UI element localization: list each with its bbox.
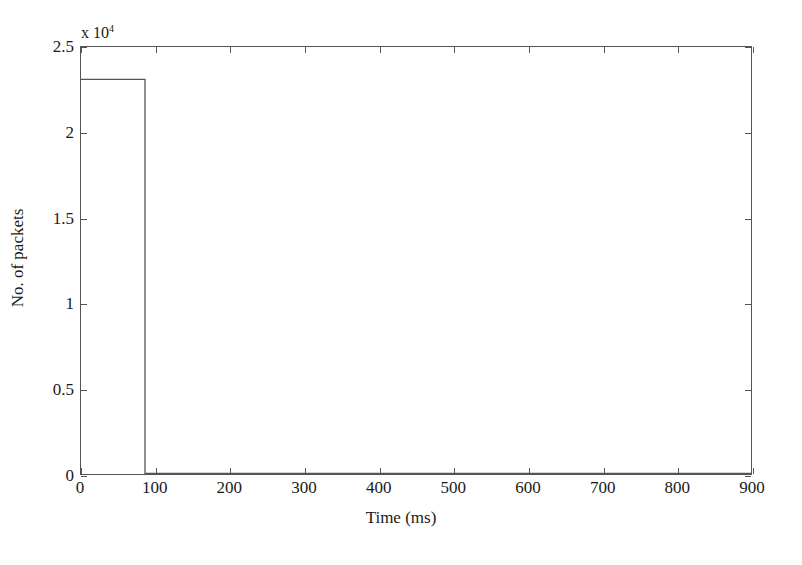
y-tick-2 xyxy=(745,133,751,134)
x-tick-label-800: 800 xyxy=(665,479,691,496)
x-tick-label-0: 0 xyxy=(76,479,85,496)
x-tick-label-100: 100 xyxy=(142,479,168,496)
y-axis-exponent-label: x 104 xyxy=(81,23,114,42)
y-tick-label-0.5: 0.5 xyxy=(53,381,74,398)
x-tick-100 xyxy=(156,47,157,53)
x-tick-label-900: 900 xyxy=(739,479,765,496)
chart-figure: x 104 0100200300400500600700800900 00.51… xyxy=(0,0,802,565)
y-tick-0 xyxy=(81,476,87,477)
y-tick-2.5 xyxy=(81,47,87,48)
y-tick-label-1: 1 xyxy=(66,295,75,312)
y-axis-exponent-power: 4 xyxy=(109,23,114,34)
x-tick-400 xyxy=(380,468,381,474)
x-tick-400 xyxy=(380,47,381,53)
x-tick-500 xyxy=(454,47,455,53)
x-tick-200 xyxy=(230,47,231,53)
y-tick-0.5 xyxy=(81,390,87,391)
x-tick-800 xyxy=(678,47,679,53)
plot-area xyxy=(80,46,752,475)
x-tick-700 xyxy=(604,47,605,53)
x-tick-200 xyxy=(230,468,231,474)
y-tick-0 xyxy=(745,476,751,477)
y-axis-title: No. of packets xyxy=(8,178,28,338)
x-tick-label-400: 400 xyxy=(366,479,392,496)
x-tick-0 xyxy=(81,468,82,474)
y-axis-exponent-prefix: x 10 xyxy=(81,24,109,41)
x-tick-700 xyxy=(604,468,605,474)
x-tick-500 xyxy=(454,468,455,474)
series-line-packets xyxy=(81,79,751,473)
y-tick-1 xyxy=(81,304,87,305)
y-tick-1 xyxy=(745,304,751,305)
x-tick-300 xyxy=(305,47,306,53)
x-tick-300 xyxy=(305,468,306,474)
x-tick-900 xyxy=(753,468,754,474)
data-trace-svg xyxy=(81,47,751,474)
x-tick-label-500: 500 xyxy=(441,479,467,496)
x-tick-label-600: 600 xyxy=(515,479,541,496)
x-tick-600 xyxy=(529,47,530,53)
x-tick-label-200: 200 xyxy=(217,479,243,496)
y-tick-1.5 xyxy=(81,219,87,220)
y-tick-label-2: 2 xyxy=(66,123,75,140)
x-tick-100 xyxy=(156,468,157,474)
y-tick-label-1.5: 1.5 xyxy=(53,209,74,226)
x-tick-600 xyxy=(529,468,530,474)
x-axis-title: Time (ms) xyxy=(0,508,802,528)
x-tick-800 xyxy=(678,468,679,474)
x-tick-label-700: 700 xyxy=(590,479,616,496)
y-tick-2.5 xyxy=(745,47,751,48)
x-tick-label-300: 300 xyxy=(291,479,317,496)
y-tick-label-2.5: 2.5 xyxy=(53,38,74,55)
y-tick-2 xyxy=(81,133,87,134)
x-tick-900 xyxy=(753,47,754,53)
y-tick-0.5 xyxy=(745,390,751,391)
y-tick-1.5 xyxy=(745,219,751,220)
y-tick-label-0: 0 xyxy=(66,467,75,484)
